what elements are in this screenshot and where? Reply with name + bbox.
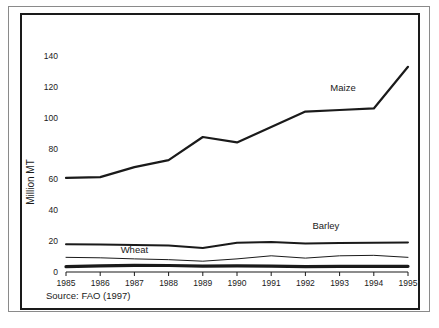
y-axis: 020406080100120140 [44, 51, 58, 277]
y-tick-label: 20 [49, 236, 59, 246]
x-axis: 1985198619871988198919901991199219931994… [57, 272, 418, 288]
x-tick-label: 1993 [330, 278, 349, 288]
x-tick-label: 1989 [193, 278, 212, 288]
y-tick-label: 60 [49, 174, 59, 184]
y-tick-label: 80 [49, 144, 59, 154]
x-tick-label: 1986 [91, 278, 110, 288]
x-tick-label: 1991 [262, 278, 281, 288]
series-label-maize: Maize [330, 82, 355, 93]
y-tick-label: 40 [49, 205, 59, 215]
figure-container: 020406080100120140 198519861987198819891… [0, 0, 439, 328]
x-tick-label: 1994 [364, 278, 383, 288]
source-note: Source: FAO (1997) [46, 290, 130, 301]
y-axis-title-text: Million MT [25, 159, 36, 205]
series-label-barley: Barley [312, 220, 339, 231]
y-tick-label: 120 [44, 82, 58, 92]
series-label-wheat: Wheat [121, 244, 149, 255]
x-tick-label: 1988 [159, 278, 178, 288]
series-line-maize [66, 67, 408, 178]
series-line-other [66, 265, 408, 266]
y-tick-label: 0 [53, 267, 58, 277]
x-tick-label: 1990 [228, 278, 247, 288]
series-line-barley [66, 242, 408, 248]
data-series-group [66, 67, 408, 267]
series-annotations: MaizeBarleyWheat [121, 82, 356, 254]
x-tick-label: 1987 [125, 278, 144, 288]
chart-canvas: 020406080100120140 198519861987198819891… [0, 0, 439, 328]
x-tick-label: 1992 [296, 278, 315, 288]
x-tick-label: 1995 [399, 278, 418, 288]
y-tick-label: 100 [44, 113, 58, 123]
source-note-text: Source: FAO (1997) [46, 290, 130, 301]
y-tick-label: 140 [44, 51, 58, 61]
series-line-wheat [66, 255, 408, 261]
y-axis-title: Million MT [25, 159, 36, 205]
x-tick-label: 1985 [57, 278, 76, 288]
